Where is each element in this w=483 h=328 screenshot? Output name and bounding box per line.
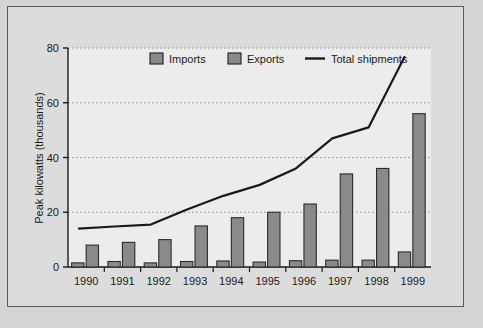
legend-swatch-exports (228, 53, 241, 64)
bar (398, 252, 410, 267)
x-tick-label: 1999 (401, 275, 425, 287)
bar (195, 226, 207, 267)
bar (377, 168, 389, 267)
legend-label-total-shipments: Total shipments (331, 53, 408, 65)
bar (86, 245, 98, 267)
legend-label-imports: Imports (169, 53, 206, 65)
x-tick-label: 1990 (74, 275, 98, 287)
chart-svg: 020406080 199019911992199319941995199619… (0, 0, 483, 328)
chart-legend: Imports Exports Total shipments (150, 53, 408, 65)
bar (108, 262, 120, 267)
legend-swatch-imports (150, 53, 163, 64)
bar (253, 262, 265, 267)
bar (122, 242, 134, 267)
bar (413, 114, 425, 267)
figure-container: 020406080 199019911992199319941995199619… (0, 0, 483, 328)
bar (144, 263, 156, 267)
y-tick-label: 20 (47, 206, 59, 218)
y-tick-label: 0 (53, 261, 59, 273)
x-tick-label: 1998 (364, 275, 388, 287)
y-tick-label: 60 (47, 97, 59, 109)
bar (159, 240, 171, 267)
bar (362, 260, 374, 267)
bar (231, 218, 243, 267)
bar (72, 263, 84, 267)
legend-label-exports: Exports (247, 53, 285, 65)
x-tick-label: 1994 (219, 275, 243, 287)
x-tick-label: 1991 (110, 275, 134, 287)
bar (268, 212, 280, 267)
bar (181, 262, 193, 267)
x-axis-ticks: 1990199119921993199419951996199719981999 (74, 267, 425, 287)
y-axis-ticks: 020406080 (47, 42, 68, 273)
bar (304, 204, 316, 267)
x-tick-label: 1995 (255, 275, 279, 287)
x-tick-label: 1997 (328, 275, 352, 287)
chart-plot-area: 020406080 199019911992199319941995199619… (0, 0, 483, 328)
x-tick-label: 1992 (147, 275, 171, 287)
x-tick-label: 1993 (183, 275, 207, 287)
x-tick-label: 1996 (292, 275, 316, 287)
bar (340, 174, 352, 267)
y-axis-title: Peak kilowatts (thousands) (33, 92, 45, 223)
bar (326, 260, 338, 267)
bar (217, 261, 229, 267)
bar (289, 261, 301, 267)
y-tick-label: 80 (47, 42, 59, 54)
y-tick-label: 40 (47, 152, 59, 164)
